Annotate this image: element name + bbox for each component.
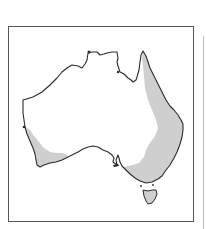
australia-map — [0, 0, 206, 229]
bass-strait-island-1 — [140, 185, 142, 187]
shark-bay-detail — [23, 126, 26, 129]
groote-eylandt — [117, 71, 119, 73]
kangaroo-island — [113, 164, 119, 167]
bass-strait-island-2 — [152, 184, 154, 186]
melville-island — [88, 51, 91, 54]
tasmania — [143, 190, 157, 204]
